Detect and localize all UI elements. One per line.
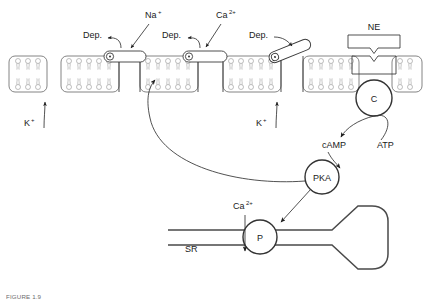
svg-text:+: + bbox=[158, 9, 162, 15]
svg-text:K: K bbox=[256, 118, 262, 128]
norepinephrine-ligand[interactable] bbox=[348, 35, 400, 54]
dep-arrow-sodium bbox=[108, 38, 121, 48]
calcium-extracellular-label: Ca 2+ bbox=[216, 9, 236, 20]
membrane-segment-6 bbox=[392, 56, 422, 92]
svg-text:2+: 2+ bbox=[229, 9, 236, 15]
calcium-sr-label: Ca 2+ bbox=[233, 200, 253, 211]
phospholamban-label: P bbox=[257, 233, 263, 243]
svg-text:2+: 2+ bbox=[246, 200, 253, 206]
camp-label: cAMP bbox=[322, 140, 346, 150]
svg-text:K: K bbox=[24, 118, 30, 128]
svg-text:Na: Na bbox=[145, 10, 157, 20]
svg-text:Ca: Ca bbox=[216, 10, 228, 20]
membrane-segment-1 bbox=[9, 56, 47, 92]
figure-caption: FIGURE 1.9 bbox=[6, 292, 426, 300]
atp-to-camp-arrow bbox=[341, 115, 388, 140]
membrane-segment-5 bbox=[303, 56, 359, 92]
atp-label: ATP bbox=[377, 140, 394, 150]
pka-label: PKA bbox=[313, 173, 331, 183]
pka-node[interactable]: PKA bbox=[305, 160, 339, 194]
dep-label-calcium: Dep. bbox=[162, 30, 181, 40]
adenylyl-cyclase-label: C bbox=[371, 94, 378, 104]
potassium-efflux-arrow-right bbox=[276, 102, 277, 128]
svg-text:+: + bbox=[263, 117, 267, 123]
dep-label-sodium: Dep. bbox=[83, 30, 102, 40]
pka-to-phospholamban-arrow bbox=[281, 189, 311, 222]
potassium-left-label: K + bbox=[24, 117, 35, 128]
sodium-pointer-arrow bbox=[131, 24, 149, 48]
calcium-channel-gate[interactable] bbox=[183, 51, 227, 62]
pka-to-calcium-channel-arrow bbox=[148, 80, 305, 182]
channel-pore-potassium bbox=[281, 56, 303, 92]
calcium-pointer-arrow bbox=[206, 24, 221, 47]
adenylyl-cyclase-node[interactable]: C bbox=[356, 80, 392, 116]
dep-label-potassium: Dep. bbox=[249, 30, 268, 40]
sodium-label: Na + bbox=[145, 9, 162, 20]
svg-text:+: + bbox=[31, 117, 35, 123]
phospholamban-node[interactable]: P bbox=[243, 220, 277, 254]
sarcoplasmic-reticulum-label: SR bbox=[185, 244, 198, 254]
sodium-channel-gate[interactable] bbox=[104, 51, 146, 62]
norepinephrine-label: NE bbox=[368, 22, 381, 32]
dep-arrow-potassium bbox=[274, 37, 292, 46]
svg-text:Ca: Ca bbox=[233, 201, 245, 211]
potassium-right-label: K + bbox=[256, 117, 267, 128]
signaling-diagram: C PKA P bbox=[0, 0, 428, 300]
potassium-efflux-arrow-left bbox=[44, 102, 45, 128]
dep-arrow-calcium bbox=[188, 38, 200, 48]
figure-container: C PKA P bbox=[0, 0, 428, 300]
sarcoplasmic-reticulum bbox=[168, 206, 388, 269]
